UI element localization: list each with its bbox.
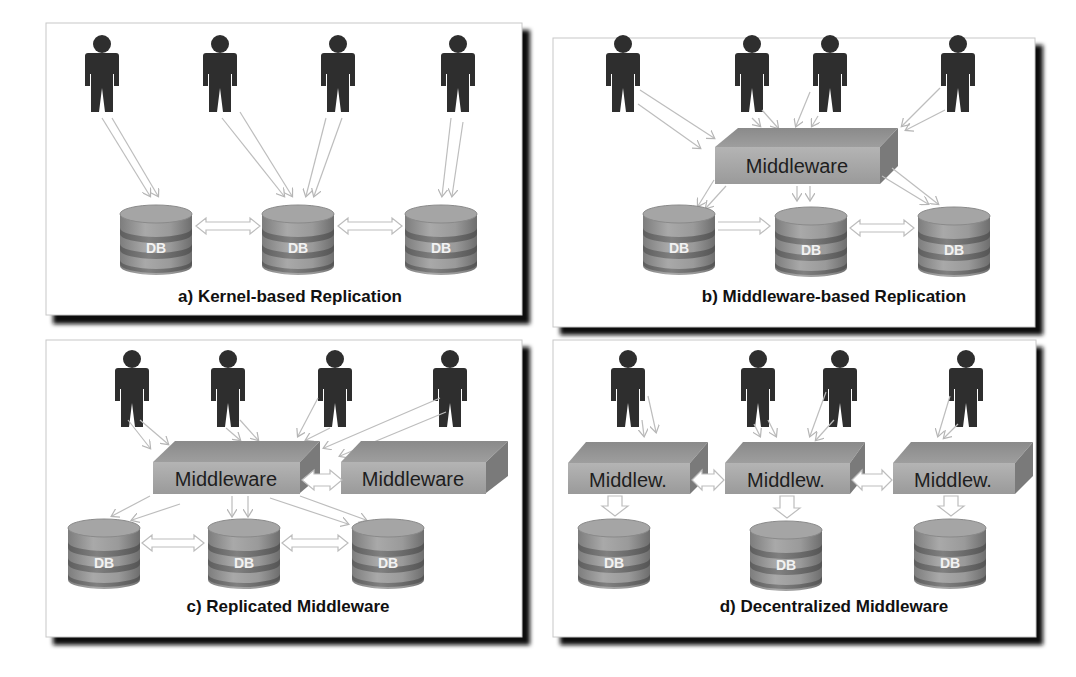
database-icon [578, 519, 650, 589]
database-label: DB [776, 557, 796, 573]
middleware-label: Middleware [175, 468, 277, 490]
database-icon [208, 519, 280, 589]
middleware-box: Middleware [715, 128, 898, 184]
panel-c-replicated-middleware: Middleware Middleware DB DB DB [46, 340, 530, 645]
database-label: DB [146, 240, 166, 256]
database-icon [352, 519, 424, 589]
middleware-box: Middlew. [893, 442, 1033, 494]
database-label: DB [378, 555, 398, 571]
middleware-box: Middlew. [725, 442, 865, 494]
database-icon [914, 519, 986, 589]
panel-d-decentralized-middleware: Middlew. Middlew. Middlew. DB DB DB [553, 340, 1043, 645]
panel-caption: a) Kernel-based Replication [178, 287, 402, 306]
database-label: DB [234, 555, 254, 571]
panel-caption: d) Decentralized Middleware [720, 597, 949, 616]
middleware-label: Middlew. [589, 469, 667, 491]
database-label: DB [94, 555, 114, 571]
database-label: DB [669, 240, 689, 256]
middleware-label: Middleware [746, 155, 848, 177]
database-icon [68, 519, 140, 589]
panel-b-middleware-based-replication: Middleware DB DB DB b) Middleware-based … [553, 35, 1043, 335]
database-label: DB [288, 240, 308, 256]
database-label: DB [604, 555, 624, 571]
database-icon [750, 521, 822, 591]
middleware-box: Middleware [153, 441, 320, 494]
replication-architectures-figure: DB DB DB a) Kernel-based Replication [0, 0, 1076, 677]
middleware-box: Middleware [341, 441, 508, 494]
middleware-box: Middlew. [568, 442, 708, 494]
database-label: DB [944, 242, 964, 258]
database-label: DB [940, 555, 960, 571]
database-label: DB [801, 242, 821, 258]
database-label: DB [431, 240, 451, 256]
panel-caption: b) Middleware-based Replication [702, 287, 967, 306]
panel-caption: c) Replicated Middleware [186, 597, 389, 616]
panel-a-kernel-based-replication: DB DB DB a) Kernel-based Replication [46, 23, 530, 324]
middleware-label: Middlew. [747, 469, 825, 491]
middleware-label: Middlew. [914, 469, 992, 491]
middleware-label: Middleware [362, 468, 464, 490]
